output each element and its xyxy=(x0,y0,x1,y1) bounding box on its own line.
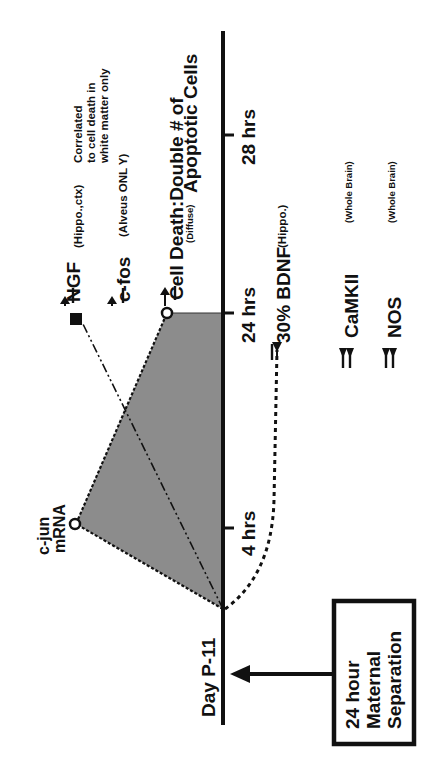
cell-death-diffuse-note: (Diffuse) xyxy=(184,204,195,243)
box-line-2: Maternal xyxy=(363,651,384,729)
cjun-label-line2: mRNA xyxy=(51,504,68,553)
box-line-1: 24 hour xyxy=(342,660,363,729)
nos-double-down-arrow-icon xyxy=(382,348,397,368)
camkii-region: (Whole Brain) xyxy=(343,161,354,223)
bdnf-down-arrow-icon xyxy=(272,342,282,360)
bdnf-region: (Hippo.) xyxy=(276,204,288,248)
separation-arrow-head-icon xyxy=(230,665,250,683)
maternal-separation-timeline-diagram: 28 hrs 24 hrs 4 hrs Day P-11 24 hour Mat… xyxy=(0,0,434,784)
ngf-marker-filled-square xyxy=(70,313,82,325)
nos-region: (Whole Brain) xyxy=(386,161,397,223)
camkii-double-down-arrow-icon xyxy=(339,348,354,368)
timeline-start-label: Day P-11 xyxy=(198,637,219,717)
cjun-marker-open-circle xyxy=(70,519,80,529)
cfos-label: c-fos xyxy=(113,257,134,302)
cell-death-label-line2: Apoptotic Cells xyxy=(180,54,201,193)
ngf-note-line2: to cell death in xyxy=(85,82,97,163)
bdnf-dotted-curve xyxy=(225,350,277,609)
cfos-region: (Alveus ONL Y) xyxy=(117,154,129,237)
cell-death-marker-open-circle xyxy=(162,308,172,318)
nos-label: NOS xyxy=(384,297,405,338)
ngf-note-line1: Correlated xyxy=(72,105,84,163)
tick-label-4hrs: 4 hrs xyxy=(238,511,259,556)
tick-label-24hrs: 24 hrs xyxy=(238,287,259,343)
tick-label-28hrs: 28 hrs xyxy=(238,109,259,165)
bdnf-label: 30% BDNF xyxy=(273,247,294,343)
cjun-label-line1: c-jun xyxy=(35,517,52,555)
camkii-label: CaMKII xyxy=(341,274,362,338)
box-line-3: Separation xyxy=(384,631,405,729)
ngf-label: NGF xyxy=(63,262,84,302)
ngf-note-line3: white matter only xyxy=(98,68,110,164)
ngf-region: (Hippo.,ctx) xyxy=(72,185,84,248)
